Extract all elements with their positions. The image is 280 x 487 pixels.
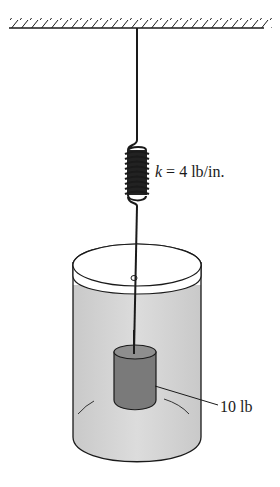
fixed-support-ceiling: [9, 18, 272, 28]
spring-constant-label: k = 4 lb/in.: [155, 163, 224, 180]
spring-mass-diagram: k = 4 lb/in. 10 lb: [0, 0, 280, 487]
spring-icon: [125, 140, 149, 206]
weight-label: 10 lb: [220, 398, 252, 415]
